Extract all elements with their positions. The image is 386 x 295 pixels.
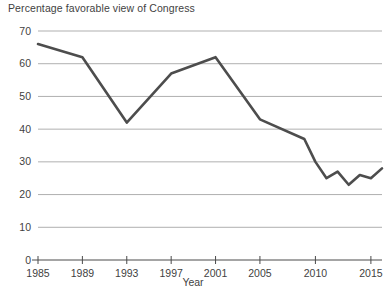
x-axis xyxy=(32,256,382,264)
y-tick-label: 20 xyxy=(19,188,31,200)
y-tick-label: 40 xyxy=(19,123,31,135)
data-line-series xyxy=(38,44,382,185)
y-tick-label: 60 xyxy=(19,57,31,69)
y-tick-label: 70 xyxy=(19,25,31,37)
y-tick-label: 30 xyxy=(19,155,31,167)
y-tick-label: 50 xyxy=(19,90,31,102)
y-tick-label: 0 xyxy=(25,254,31,266)
x-axis-title: Year xyxy=(0,276,386,288)
y-tick-label: 10 xyxy=(19,221,31,233)
chart-figure: Percentage favorable view of Congress 01… xyxy=(0,0,386,295)
line-chart-plot: 010203040506070 198519891993199720012005… xyxy=(0,0,386,295)
y-axis-tick-labels: 010203040506070 xyxy=(19,25,31,266)
